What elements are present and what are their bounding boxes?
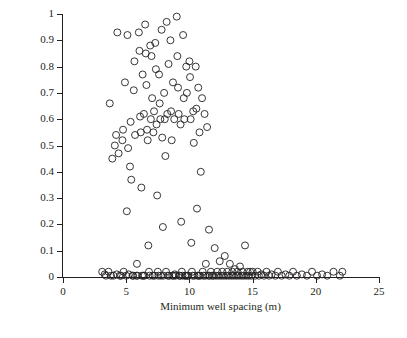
- data-point: [202, 260, 209, 267]
- y-axis-tick: [57, 40, 63, 41]
- data-point: [183, 89, 190, 96]
- data-point: [330, 268, 337, 275]
- y-axis-tick-label: 0.1: [40, 245, 54, 256]
- data-point: [143, 82, 150, 89]
- data-point: [188, 239, 195, 246]
- data-point: [314, 272, 321, 279]
- data-point: [303, 272, 310, 279]
- data-point: [156, 71, 163, 78]
- x-axis-title: Minimum well spacing (m): [62, 300, 379, 312]
- data-point: [163, 18, 170, 25]
- x-axis-tick-label: 0: [48, 286, 78, 297]
- data-point: [121, 79, 128, 86]
- data-point: [193, 205, 200, 212]
- x-axis-tick: [316, 277, 317, 283]
- x-axis-tick: [126, 277, 127, 283]
- scatter-plot-figure: 00.10.20.30.40.50.60.70.80.910510152025 …: [0, 0, 407, 338]
- data-point: [119, 137, 126, 144]
- data-point: [190, 139, 197, 146]
- y-axis-tick-label: 0.2: [40, 218, 54, 229]
- data-point: [167, 37, 174, 44]
- x-axis-tick: [253, 277, 254, 283]
- y-axis-tick-label: 0.9: [40, 34, 54, 45]
- y-axis-tick: [57, 93, 63, 94]
- data-point: [115, 150, 122, 157]
- y-axis-tick: [57, 172, 63, 173]
- y-axis-tick: [57, 14, 63, 15]
- x-axis-tick: [63, 277, 64, 283]
- data-point: [290, 268, 297, 275]
- data-point: [111, 142, 118, 149]
- data-point: [154, 192, 161, 199]
- data-point: [186, 58, 193, 65]
- y-axis-tick: [57, 119, 63, 120]
- data-point: [221, 252, 228, 259]
- data-point: [274, 268, 281, 275]
- data-point: [197, 168, 204, 175]
- data-point: [195, 84, 202, 91]
- data-point: [162, 153, 169, 160]
- data-point: [150, 129, 157, 136]
- data-point: [183, 63, 190, 70]
- data-point: [336, 272, 343, 279]
- data-point: [205, 226, 212, 233]
- data-point: [114, 29, 121, 36]
- data-point: [127, 118, 134, 125]
- data-point: [286, 272, 293, 279]
- data-point: [165, 60, 172, 67]
- y-axis-tick-label: 0.3: [40, 192, 54, 203]
- data-point: [319, 271, 326, 278]
- data-point: [148, 53, 155, 60]
- data-point: [151, 108, 158, 115]
- x-axis-tick-label: 25: [364, 286, 394, 297]
- data-point: [158, 26, 165, 33]
- data-point: [175, 84, 182, 91]
- data-point: [159, 224, 166, 231]
- data-point: [192, 63, 199, 70]
- x-axis-tick-label: 5: [111, 286, 141, 297]
- plot-area: 00.10.20.30.40.50.60.70.80.910510152025: [62, 14, 379, 278]
- data-point: [180, 95, 187, 102]
- y-axis-tick: [57, 146, 63, 147]
- data-point: [152, 66, 159, 73]
- x-axis-tick: [189, 277, 190, 283]
- data-points-layer: [63, 14, 379, 277]
- data-point: [293, 272, 300, 279]
- data-point: [175, 110, 182, 117]
- data-point: [131, 58, 138, 65]
- data-point: [201, 110, 208, 117]
- y-axis-tick-label: 0.4: [40, 166, 54, 177]
- data-point: [128, 176, 135, 183]
- data-point: [168, 137, 175, 144]
- data-point: [242, 242, 249, 249]
- data-point: [124, 32, 131, 39]
- data-point: [138, 184, 145, 191]
- y-axis-tick-label: 0.8: [40, 61, 54, 72]
- y-axis-tick: [57, 251, 63, 252]
- data-point: [145, 242, 152, 249]
- data-point: [298, 271, 305, 278]
- data-point: [339, 268, 346, 275]
- data-point: [135, 29, 142, 36]
- data-point: [161, 89, 168, 96]
- y-axis-tick-label: 0.5: [40, 140, 54, 151]
- data-point: [125, 145, 132, 152]
- y-axis-tick: [57, 67, 63, 68]
- x-axis-tick-label: 15: [238, 286, 268, 297]
- data-point: [211, 245, 218, 252]
- data-point: [309, 268, 316, 275]
- data-point: [130, 87, 137, 94]
- data-point: [142, 21, 149, 28]
- data-point: [199, 95, 206, 102]
- x-axis-tick-label: 20: [301, 286, 331, 297]
- data-point: [204, 124, 211, 131]
- data-point: [324, 272, 331, 279]
- data-point: [133, 260, 140, 267]
- data-point: [113, 131, 120, 138]
- y-axis-tick-label: 0: [49, 271, 55, 282]
- y-axis-tick-label: 0.7: [40, 87, 54, 98]
- data-point: [173, 13, 180, 20]
- data-point: [159, 134, 166, 141]
- data-point: [109, 155, 116, 162]
- data-point: [147, 116, 154, 123]
